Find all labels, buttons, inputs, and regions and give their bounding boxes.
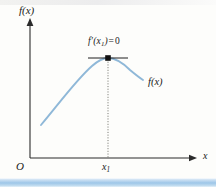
derivative-annotation: f′(x1)=0	[88, 37, 120, 48]
x-axis-arrowhead	[189, 155, 197, 162]
critical-point-marker	[105, 55, 111, 61]
curve-label: f(x)	[148, 77, 163, 88]
x1-tick-label: x1	[102, 162, 110, 174]
bottom-accent-bar	[0, 178, 216, 187]
origin-label: O	[16, 161, 24, 172]
calculus-figure: f(x) x O x1 f′(x1)=0 f(x)	[0, 0, 216, 187]
x-axis-label: x	[203, 151, 207, 161]
derivative-open-paren: (x	[93, 36, 101, 46]
function-curve	[41, 58, 143, 125]
plot-canvas	[0, 0, 216, 187]
x1-tick-subscript: 1	[106, 166, 110, 174]
y-axis-arrowhead	[27, 18, 34, 26]
derivative-value: 0	[114, 36, 120, 46]
y-axis-label: f(x)	[19, 5, 34, 16]
